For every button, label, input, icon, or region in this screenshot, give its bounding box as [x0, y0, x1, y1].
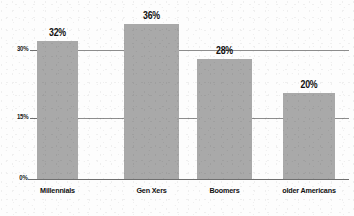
- plot-area: 30% 15% 0% 32% 36% 28% 20% Millennials G…: [0, 0, 354, 216]
- x-axis-category-older-americans: older Americans: [269, 186, 348, 195]
- bar-boomers[interactable]: [197, 59, 252, 179]
- x-axis-category-gen-xers: Gen Xers: [111, 186, 193, 195]
- x-axis-category-boomers: Boomers: [184, 186, 266, 195]
- bar-value-label-boomers: 28%: [200, 45, 248, 56]
- x-axis-category-millennials: Millennials: [23, 186, 92, 195]
- y-axis-label-15: 15%: [16, 113, 28, 120]
- gridline-30: [37, 50, 349, 51]
- bar-millennials[interactable]: [37, 41, 78, 179]
- x-axis-baseline: [28, 179, 349, 180]
- bar-value-label-millennials: 32%: [39, 27, 75, 38]
- bar-value-label-older-americans: 20%: [286, 79, 332, 90]
- bar-gen-xers[interactable]: [124, 24, 179, 179]
- y-tick-mark-30: [30, 50, 37, 51]
- y-tick-mark-15: [30, 118, 37, 119]
- bar-older-americans[interactable]: [283, 93, 335, 179]
- bar-value-label-gen-xers: 36%: [127, 10, 175, 21]
- bar-chart: 30% 15% 0% 32% 36% 28% 20% Millennials G…: [0, 0, 354, 216]
- y-axis-label-30: 30%: [16, 45, 28, 52]
- y-axis-label-0: 0%: [20, 174, 28, 181]
